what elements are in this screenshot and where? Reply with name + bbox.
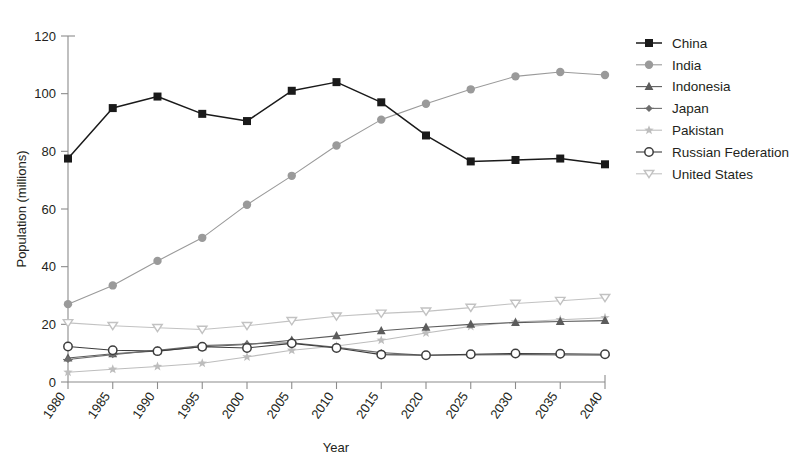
marker-open-circle [511, 349, 519, 357]
series-united-states [63, 295, 610, 334]
marker-filled-circle [198, 234, 206, 242]
marker-open-circle [601, 350, 609, 358]
legend-label: Japan [672, 101, 709, 116]
marker-filled-square [556, 155, 564, 163]
y-tick-label: 40 [42, 259, 56, 274]
marker-star [644, 125, 654, 134]
marker-filled-triangle-up [556, 317, 565, 325]
marker-filled-square [422, 131, 430, 139]
marker-open-circle [288, 339, 296, 347]
marker-open-circle [467, 350, 475, 358]
marker-filled-circle [153, 257, 161, 265]
legend-item-india[interactable]: India [636, 58, 702, 73]
marker-open-circle [153, 347, 161, 355]
chart-legend: ChinaIndiaIndonesiaJapanPakistanRussian … [636, 36, 789, 182]
marker-filled-square [109, 104, 117, 112]
marker-filled-circle [332, 141, 340, 149]
y-tick-label: 120 [34, 29, 56, 44]
marker-filled-circle [64, 300, 72, 308]
marker-filled-square [645, 39, 653, 47]
marker-filled-square [333, 78, 341, 86]
x-axis-tick-labels: 1980198519901995200020052010201520202025… [40, 389, 606, 421]
series-line [68, 82, 605, 164]
series-layer [63, 68, 610, 376]
legend-label: Indonesia [672, 79, 731, 94]
marker-filled-circle [377, 115, 385, 123]
x-tick-label: 1990 [129, 389, 158, 421]
y-axis-title: Population (millions) [14, 150, 29, 267]
series-line [68, 72, 605, 304]
legend-label: Pakistan [672, 123, 724, 138]
marker-filled-square [243, 117, 251, 125]
x-tick-label: 2010 [308, 389, 337, 421]
marker-filled-circle [288, 172, 296, 180]
x-tick-label: 1995 [174, 389, 203, 421]
marker-star [197, 358, 207, 367]
marker-filled-diamond [63, 356, 73, 363]
marker-filled-triangle-up [645, 82, 654, 90]
legend-label: China [672, 36, 708, 51]
marker-star [242, 352, 252, 361]
marker-star [376, 335, 386, 344]
legend-item-pakistan[interactable]: Pakistan [636, 123, 724, 138]
y-axis-tick-labels: 020406080100120 [34, 29, 56, 390]
marker-open-circle [243, 344, 251, 352]
x-tick-label: 2025 [442, 389, 471, 421]
x-tick-label: 2000 [219, 389, 248, 421]
x-tick-label: 2035 [532, 389, 561, 421]
marker-filled-square [154, 93, 162, 101]
marker-filled-circle [511, 72, 519, 80]
x-tick-label: 1985 [84, 389, 113, 421]
legend-label: Russian Federation [672, 145, 789, 160]
marker-open-circle [109, 346, 117, 354]
x-tick-label: 1980 [40, 389, 69, 421]
y-tick-label: 60 [42, 202, 56, 217]
marker-filled-circle [601, 71, 609, 79]
marker-open-circle [556, 350, 564, 358]
chart-container: 020406080100120 198019851990199520002005… [0, 0, 794, 467]
legend-item-china[interactable]: China [636, 36, 708, 51]
marker-filled-square [288, 87, 296, 95]
legend-item-united-states[interactable]: United States [636, 167, 753, 182]
x-tick-label: 2015 [353, 389, 382, 421]
marker-filled-circle [645, 61, 653, 69]
marker-filled-square [601, 160, 609, 168]
x-axis-title: Year [323, 440, 350, 455]
y-tick-label: 100 [34, 86, 56, 101]
marker-filled-circle [556, 68, 564, 76]
marker-open-circle [422, 351, 430, 359]
marker-filled-square [512, 156, 520, 164]
series-india [64, 68, 609, 309]
marker-star [108, 364, 118, 373]
marker-open-circle [645, 148, 653, 156]
marker-open-circle [332, 344, 340, 352]
marker-open-circle [198, 343, 206, 351]
marker-filled-square [64, 155, 72, 163]
marker-filled-circle [422, 100, 430, 108]
y-tick-label: 20 [42, 317, 56, 332]
marker-open-circle [64, 342, 72, 350]
axis-frame [68, 36, 605, 382]
x-tick-label: 2030 [487, 389, 516, 421]
marker-filled-square [198, 110, 206, 118]
marker-filled-circle [467, 85, 475, 93]
marker-filled-circle [109, 281, 117, 289]
marker-star [153, 361, 163, 370]
y-tick-label: 80 [42, 144, 56, 159]
legend-item-japan[interactable]: Japan [636, 101, 709, 116]
x-tick-label: 2040 [577, 389, 606, 421]
legend-item-russian-federation[interactable]: Russian Federation [636, 145, 789, 160]
marker-filled-square [467, 157, 475, 165]
marker-filled-square [377, 98, 385, 106]
x-tick-label: 2005 [263, 389, 292, 421]
marker-filled-diamond [644, 105, 654, 112]
line-chart: 020406080100120 198019851990199520002005… [0, 0, 794, 467]
legend-item-indonesia[interactable]: Indonesia [636, 79, 731, 94]
marker-open-circle [377, 350, 385, 358]
y-tick-label: 0 [49, 375, 56, 390]
marker-filled-circle [243, 200, 251, 208]
series-china [64, 78, 609, 168]
x-tick-label: 2020 [398, 389, 427, 421]
legend-label: United States [672, 167, 753, 182]
legend-label: India [672, 58, 702, 73]
